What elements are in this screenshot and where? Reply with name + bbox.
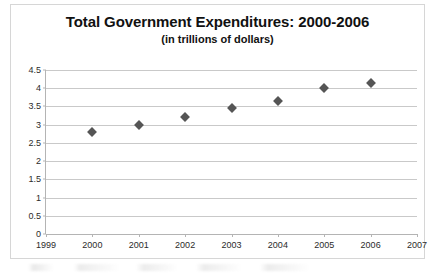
- data-point: [273, 96, 283, 106]
- chart-card: Total Government Expenditures: 2000-2006…: [10, 4, 425, 259]
- y-axis-tick-label: 4: [36, 83, 41, 93]
- x-axis-tick-label: 2004: [268, 240, 288, 250]
- y-axis-line: [45, 70, 46, 234]
- x-axis-tick-mark: [92, 234, 93, 237]
- y-axis-tick-label: 2: [36, 156, 41, 166]
- x-axis-tick-label: 2003: [221, 240, 241, 250]
- x-axis-tick-label: 2002: [175, 240, 195, 250]
- y-axis-tick-mark: [43, 124, 46, 125]
- y-axis-tick-label: 2.5: [28, 138, 41, 148]
- gridline: [46, 125, 417, 126]
- x-axis-tick-mark: [185, 234, 186, 237]
- y-axis-tick-mark: [43, 142, 46, 143]
- x-axis-tick-label: 2006: [361, 240, 381, 250]
- scan-artifact: [28, 264, 328, 271]
- y-axis-tick-label: 1.5: [28, 174, 41, 184]
- gridline: [46, 216, 417, 217]
- y-axis-tick-mark: [43, 197, 46, 198]
- x-axis-tick-mark: [278, 234, 279, 237]
- x-axis-tick-mark: [417, 234, 418, 237]
- x-axis-tick-label: 1999: [36, 240, 56, 250]
- x-axis-tick-mark: [232, 234, 233, 237]
- x-axis-tick-label: 2001: [129, 240, 149, 250]
- data-point: [319, 83, 329, 93]
- y-axis-tick-mark: [43, 179, 46, 180]
- data-point: [180, 112, 190, 122]
- y-axis-tick-label: 4.5: [28, 65, 41, 75]
- x-axis-tick-label: 2005: [314, 240, 334, 250]
- x-axis-tick-mark: [371, 234, 372, 237]
- gridline: [46, 70, 417, 71]
- x-axis-tick-label: 2000: [82, 240, 102, 250]
- y-axis-tick-label: 3: [36, 120, 41, 130]
- page-title: Total Government Expenditures: 2000-2006: [11, 13, 424, 31]
- x-axis-tick-mark: [324, 234, 325, 237]
- x-axis-tick-label: 2007: [407, 240, 427, 250]
- gridline: [46, 179, 417, 180]
- data-point: [87, 127, 97, 137]
- gridline: [46, 143, 417, 144]
- gridline: [46, 198, 417, 199]
- y-axis-tick-mark: [43, 106, 46, 107]
- plot-area: 4.543.532.521.510.50 1999200020012002200…: [46, 70, 417, 234]
- y-axis-tick-mark: [43, 70, 46, 71]
- x-axis-tick-mark: [139, 234, 140, 237]
- y-axis-tick-label: 0: [36, 229, 41, 239]
- chart-title-block: Total Government Expenditures: 2000-2006…: [11, 13, 424, 46]
- y-axis-tick-mark: [43, 215, 46, 216]
- y-axis-tick-label: 3.5: [28, 101, 41, 111]
- data-point: [366, 78, 376, 88]
- y-axis-tick-label: 1: [36, 193, 41, 203]
- y-axis-tick-label: 0.5: [28, 211, 41, 221]
- y-axis-tick-mark: [43, 161, 46, 162]
- data-point: [227, 103, 237, 113]
- y-axis-tick-mark: [43, 88, 46, 89]
- x-axis-tick-mark: [46, 234, 47, 237]
- gridline: [46, 161, 417, 162]
- chart-subtitle: (in trillions of dollars): [11, 32, 424, 46]
- data-point: [134, 120, 144, 130]
- gridline: [46, 88, 417, 89]
